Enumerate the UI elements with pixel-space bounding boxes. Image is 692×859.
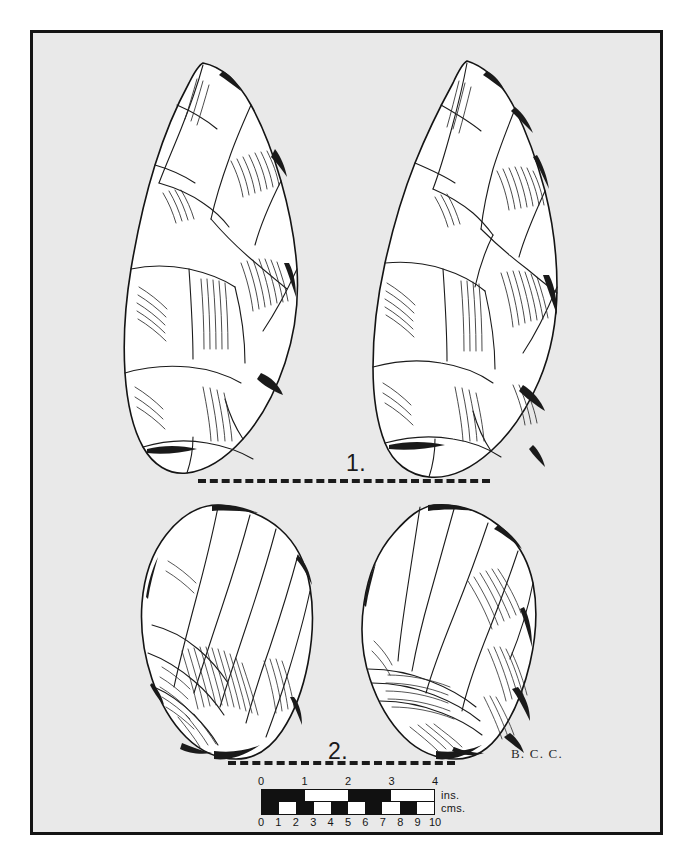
scale-segment	[296, 802, 313, 814]
scale-segment	[348, 790, 391, 801]
figure-2-right-view	[358, 501, 543, 763]
scale-tick-label: 0	[258, 816, 264, 829]
scale-tick-label: 5	[345, 816, 351, 829]
scale-bar: 01234 012345678910 ins. cms.	[261, 775, 435, 829]
scale-segment	[400, 802, 417, 814]
scale-tick-label: 7	[380, 816, 386, 829]
scale-tick-label: 9	[415, 816, 421, 829]
scale-tick-label: 1	[301, 775, 307, 788]
scale-inches-bar	[261, 789, 435, 802]
scale-tick-label: 6	[362, 816, 368, 829]
scale-tick-label: 8	[397, 816, 403, 829]
figure-1-number: 1.	[346, 450, 366, 477]
scale-segment	[279, 802, 296, 814]
scale-tick-label: 0	[258, 775, 264, 788]
scale-segment	[305, 790, 348, 801]
scale-tick-label: 2	[293, 816, 299, 829]
scale-segment	[382, 802, 399, 814]
figure-1-baseline	[198, 479, 490, 483]
scale-tick-label: 3	[388, 775, 394, 788]
scale-cms-ticks: 012345678910	[261, 816, 435, 829]
scale-segment	[262, 802, 279, 814]
scale-segment	[417, 802, 434, 814]
figure-2-baseline	[228, 761, 455, 765]
scale-tick-label: 2	[345, 775, 351, 788]
scale-segment	[348, 802, 365, 814]
artist-signature: B. C. C.	[511, 746, 563, 762]
scale-tick-label: 1	[275, 816, 281, 829]
figure-1-left-view	[111, 57, 311, 487]
scale-segment	[365, 802, 382, 814]
scale-segment	[331, 802, 348, 814]
scale-tick-label: 10	[429, 816, 441, 829]
scale-inches-unit-label: ins.	[441, 789, 459, 801]
scale-segment	[391, 790, 434, 801]
scale-tick-label: 3	[310, 816, 316, 829]
scale-cms-bar	[261, 802, 435, 815]
scale-segment	[314, 802, 331, 814]
scale-cms-unit-label: cms.	[441, 802, 465, 814]
scale-segment	[262, 790, 305, 801]
scale-tick-label: 4	[328, 816, 334, 829]
figure-1-right-view	[363, 55, 573, 495]
illustration-plate: 1. 2. B. C. C. 01234 012345678910 ins. c…	[30, 30, 663, 835]
figure-2-left-view	[138, 501, 323, 763]
scale-tick-label: 4	[432, 775, 438, 788]
scale-inches-ticks: 01234	[261, 775, 435, 788]
